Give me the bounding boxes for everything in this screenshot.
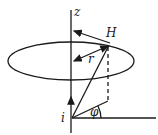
- h-label: H: [105, 26, 117, 40]
- r-label: r: [88, 52, 95, 66]
- h-vector-arrow: [74, 31, 110, 43]
- phi-angle-arc: [98, 106, 101, 118]
- z-label: z: [73, 5, 81, 19]
- phi-label: φ: [90, 105, 99, 119]
- i-label: i: [61, 111, 65, 125]
- current-element-field-diagram: z H r i φ: [0, 0, 158, 135]
